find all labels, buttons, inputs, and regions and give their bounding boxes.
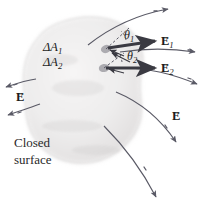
- label-delta-a2: ΔA2: [43, 56, 62, 70]
- delta-a1-text: ΔA: [43, 40, 58, 54]
- theta1-subscript: 1: [130, 35, 134, 44]
- e1-vector-group: →E: [161, 35, 169, 48]
- e-right-vector-arrow-accent: →: [171, 107, 179, 117]
- delta-a2-subscript: 2: [58, 61, 62, 71]
- label-theta1: θ1: [124, 29, 134, 44]
- label-theta2: θ2: [127, 50, 137, 65]
- e1-vector-arrow-accent: →: [160, 32, 168, 42]
- delta-a1-subscript: 1: [58, 46, 62, 56]
- e1-subscript: 1: [169, 40, 173, 50]
- e-left-vector-arrow-accent: →: [15, 88, 23, 98]
- label-delta-a1: ΔA1: [43, 41, 62, 55]
- e2-vector-group: →E: [161, 62, 169, 75]
- label-closed-surface: Closed surface: [14, 135, 52, 168]
- closed-surface-line-2: surface: [14, 152, 52, 169]
- e2-vector-arrow-accent: →: [160, 59, 168, 69]
- label-e-field-left: →E: [16, 91, 24, 104]
- e-left-vector-group: →E: [16, 91, 24, 104]
- delta-a2-text: ΔA: [43, 55, 58, 69]
- label-e-vector-2: →E2: [161, 62, 174, 76]
- figure-canvas: [0, 0, 199, 198]
- e-right-vector-group: →E: [172, 110, 180, 123]
- e2-subscript: 2: [169, 67, 173, 77]
- label-e-field-right: →E: [172, 110, 180, 123]
- label-e-vector-1: →E1: [161, 35, 174, 49]
- closed-surface-line-1: Closed: [14, 135, 52, 152]
- theta2-subscript: 2: [133, 56, 137, 65]
- gauss-law-figure: ΔA1 ΔA2 θ1 θ2 →E1 →E2 →E →E Closed surfa…: [0, 0, 199, 198]
